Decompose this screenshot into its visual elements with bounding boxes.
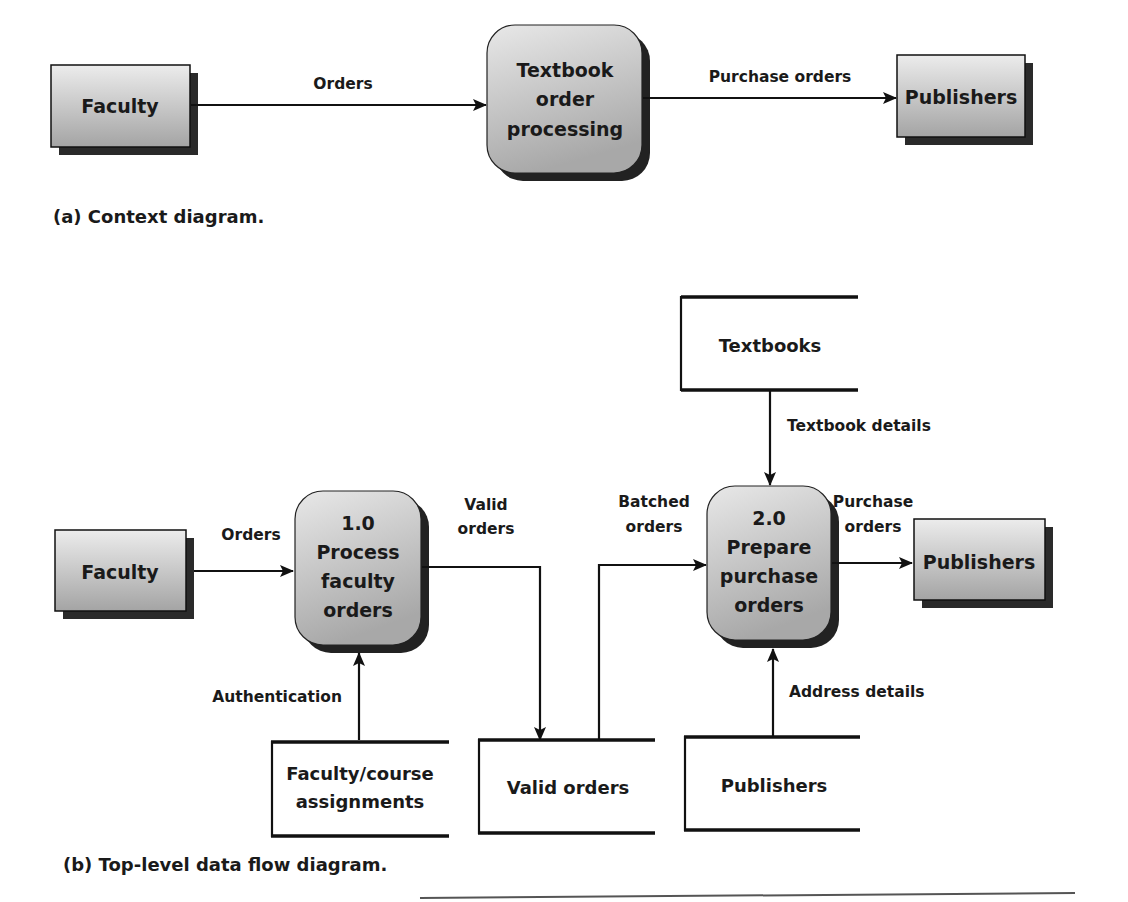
context-diagram: Faculty Orders Textbook order processing…: [51, 25, 1033, 227]
process-label-line: purchase: [720, 565, 818, 587]
flow-label: Orders: [221, 526, 280, 544]
flow-authentication[interactable]: Authentication: [212, 653, 359, 740]
caption-context-diagram: (a) Context diagram.: [53, 206, 264, 227]
process-label-line: orders: [734, 594, 804, 616]
store-faculty-course-assignments[interactable]: Faculty/course assignments: [271, 741, 449, 837]
flow-purchase-orders-dfd[interactable]: Purchase orders: [832, 493, 913, 563]
store-label-line: assignments: [296, 791, 425, 812]
flow-orders-dfd[interactable]: Orders: [194, 526, 293, 571]
process-label-line: Prepare: [727, 536, 812, 558]
flow-address-details[interactable]: Address details: [773, 649, 925, 737]
caption-top-level-dfd: (b) Top-level data flow diagram.: [63, 854, 387, 875]
store-label: Textbooks: [719, 335, 822, 356]
flow-label-line: Batched: [618, 493, 690, 511]
entity-label: Faculty: [81, 95, 159, 117]
process-1-0[interactable]: 1.0 Process faculty orders: [295, 491, 429, 653]
flow-label-line: orders: [626, 518, 683, 536]
process-label-line: processing: [507, 118, 623, 140]
entity-label: Publishers: [905, 86, 1017, 108]
entity-faculty-context[interactable]: Faculty: [51, 65, 198, 155]
flow-purchase-orders-context[interactable]: Purchase orders: [643, 68, 896, 98]
flow-batched-orders[interactable]: Batched orders: [599, 493, 706, 739]
page-rule-divider: [420, 893, 1075, 898]
process-label-line: Textbook: [516, 59, 613, 81]
entity-label: Faculty: [81, 561, 159, 583]
flow-label-line: orders: [845, 518, 902, 536]
diagram-canvas: Faculty Orders Textbook order processing…: [0, 0, 1128, 902]
store-textbooks[interactable]: Textbooks: [681, 296, 858, 391]
flow-textbook-details[interactable]: Textbook details: [770, 391, 931, 485]
process-label-line: order: [536, 88, 595, 110]
flow-arrow: [422, 567, 540, 740]
flow-label: Authentication: [212, 688, 342, 706]
process-2-0[interactable]: 2.0 Prepare purchase orders: [707, 486, 839, 648]
flow-orders-context[interactable]: Orders: [191, 75, 486, 105]
entity-faculty-dfd[interactable]: Faculty: [55, 530, 194, 619]
process-label-line: 2.0: [752, 507, 786, 529]
entity-publishers-dfd[interactable]: Publishers: [914, 519, 1053, 608]
flow-label: Address details: [789, 683, 925, 701]
flow-label-line: orders: [458, 520, 515, 538]
store-valid-orders[interactable]: Valid orders: [478, 739, 655, 834]
process-label-line: faculty: [321, 570, 395, 592]
process-textbook-order-processing[interactable]: Textbook order processing: [487, 25, 650, 181]
process-label-line: orders: [323, 599, 393, 621]
entity-publishers-context[interactable]: Publishers: [897, 55, 1033, 145]
flow-valid-orders[interactable]: Valid orders: [422, 496, 540, 740]
store-label-line: Faculty/course: [286, 763, 434, 784]
process-label-line: 1.0: [341, 512, 375, 534]
store-label: Valid orders: [507, 777, 630, 798]
flow-label-line: Purchase: [833, 493, 913, 511]
flow-label: Purchase orders: [709, 68, 852, 86]
flow-label: Textbook details: [787, 417, 931, 435]
store-publishers[interactable]: Publishers: [684, 736, 860, 831]
flow-label-line: Valid: [464, 496, 507, 514]
entity-label: Publishers: [923, 551, 1035, 573]
process-label-line: Process: [316, 541, 399, 563]
store-label: Publishers: [721, 775, 828, 796]
top-level-dfd: Textbooks Textbook details Faculty Order…: [55, 296, 1075, 898]
flow-arrow: [599, 565, 706, 739]
flow-label: Orders: [313, 75, 372, 93]
